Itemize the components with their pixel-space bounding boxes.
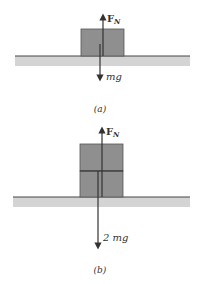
normal-force-label-a: F bbox=[107, 13, 114, 24]
svg-text:FN: FN bbox=[107, 13, 121, 26]
ground-a bbox=[15, 56, 190, 66]
normal-force-subscript-b: N bbox=[112, 130, 120, 139]
ground-b bbox=[13, 197, 190, 207]
weight-label-b: 2 mg bbox=[102, 232, 128, 243]
svg-text:FN: FN bbox=[106, 126, 120, 139]
weight-label-a: mg bbox=[106, 71, 122, 82]
panel-a: FN mg (a) bbox=[15, 13, 190, 114]
caption-a: (a) bbox=[94, 104, 107, 114]
panel-b: FN 2 mg (b) bbox=[13, 126, 190, 275]
normal-force-label-b: F bbox=[106, 126, 113, 137]
caption-b: (b) bbox=[94, 265, 107, 275]
normal-force-subscript-a: N bbox=[113, 17, 121, 26]
free-body-diagram: FN mg (a) FN 2 mg (b) bbox=[0, 0, 198, 284]
